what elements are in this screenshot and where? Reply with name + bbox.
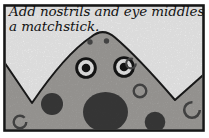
comic-panel: Add nostrils and eye middles with a matc… xyxy=(0,0,209,138)
caption-line-2: a matchstick. xyxy=(9,19,209,34)
caption: Add nostrils and eye middles with a matc… xyxy=(9,4,209,33)
caption-line-1: Add nostrils and eye middles with xyxy=(9,4,209,19)
